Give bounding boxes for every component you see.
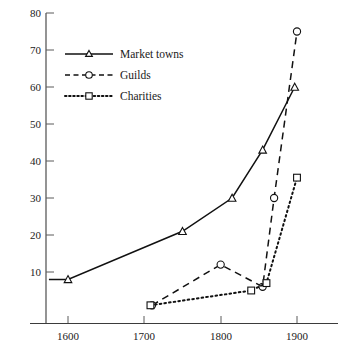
series-market-towns: [49, 83, 299, 282]
y-tick-label-30: 30: [30, 192, 42, 204]
y-tick-label-70: 70: [30, 44, 42, 56]
y-tick-label-50: 50: [30, 118, 42, 130]
series-line: [49, 87, 295, 279]
line-chart: 80 70 60 50 40 30 20 10 1600 1700 1800 1…: [0, 0, 351, 361]
legend-item-charities[interactable]: Charities: [65, 90, 162, 102]
x-tick-label-1900: 1900: [286, 330, 309, 342]
square-marker: [294, 174, 301, 181]
triangle-marker: [228, 194, 236, 201]
y-tick-label-60: 60: [30, 81, 42, 93]
triangle-marker: [259, 146, 267, 153]
legend-label-charities: Charities: [120, 90, 162, 102]
series-guilds: [148, 28, 300, 309]
square-marker: [86, 93, 92, 99]
legend: Market towns Guilds Charities: [65, 48, 184, 102]
triangle-marker: [291, 83, 299, 90]
circle-marker: [271, 194, 278, 201]
square-marker: [263, 280, 270, 287]
x-tick-label-1600: 1600: [57, 330, 80, 342]
x-tick-label-1800: 1800: [210, 330, 233, 342]
triangle-marker: [179, 228, 187, 235]
series-layer: [49, 28, 301, 309]
x-tick-label-1700: 1700: [133, 330, 156, 342]
y-tick-label-20: 20: [30, 229, 42, 241]
circle-marker: [217, 261, 224, 268]
chart-canvas: 80 70 60 50 40 30 20 10 1600 1700 1800 1…: [0, 0, 351, 361]
y-tick-label-40: 40: [30, 155, 42, 167]
legend-item-guilds[interactable]: Guilds: [65, 69, 151, 81]
y-tick-label-10: 10: [30, 266, 42, 278]
y-tick-label-80: 80: [30, 7, 42, 19]
series-charities: [147, 174, 300, 308]
circle-marker: [86, 72, 93, 79]
legend-label-guilds: Guilds: [120, 69, 151, 81]
legend-item-market-towns[interactable]: Market towns: [65, 48, 184, 60]
legend-label-market-towns: Market towns: [120, 48, 184, 60]
square-marker: [147, 302, 154, 309]
circle-marker: [293, 28, 300, 35]
square-marker: [248, 287, 255, 294]
